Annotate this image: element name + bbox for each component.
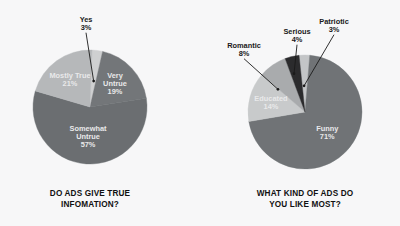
pie-label-text-serious: Serious xyxy=(283,27,310,36)
pie-chart-graphic-2: Patriotic3%Funny71%Educated14%Romantic8%… xyxy=(200,0,400,226)
chart-title-line-1: DO ADS GIVE TRUE xyxy=(50,189,131,198)
pie-label-text-romantic: 8% xyxy=(239,49,250,58)
pie-label-text-patriotic: Patriotic xyxy=(319,17,349,26)
pie-chart-panel-do-ads-give-true-information: Yes3%VeryUntrue19%SomewhatUntrue57%Mostl… xyxy=(0,0,200,226)
pie-label-text-serious: 4% xyxy=(292,35,303,44)
pie-label-text-yes: Yes xyxy=(80,15,93,24)
leader-dot-yes xyxy=(92,80,95,83)
chart-title-what-kind-of-ads-do-you-like-most: WHAT KIND OF ADS DOYOU LIKE MOST? xyxy=(257,189,354,209)
leader-dot-romantic xyxy=(277,88,280,91)
pie-label-text-patriotic: 3% xyxy=(329,25,340,34)
leader-dot-patriotic xyxy=(303,84,306,87)
pie-label-text-romantic: Romantic xyxy=(227,41,261,50)
chart-title-do-ads-give-true-information: DO ADS GIVE TRUEINFOMATION? xyxy=(50,189,131,209)
chart-title-line-2: YOU LIKE MOST? xyxy=(269,200,341,209)
leader-dot-serious xyxy=(293,72,296,75)
pie-chart-panel-what-kind-of-ads-do-you-like-most: Patriotic3%Funny71%Educated14%Romantic8%… xyxy=(200,0,400,226)
pie-label-text-yes: 3% xyxy=(81,23,92,32)
chart-title-line-1: WHAT KIND OF ADS DO xyxy=(257,189,354,198)
chart-title-line-2: INFOMATION? xyxy=(61,200,119,209)
pie-chart-graphic-1: Yes3%VeryUntrue19%SomewhatUntrue57%Mostl… xyxy=(0,0,200,226)
infographic-canvas: Yes3%VeryUntrue19%SomewhatUntrue57%Mostl… xyxy=(0,0,400,226)
